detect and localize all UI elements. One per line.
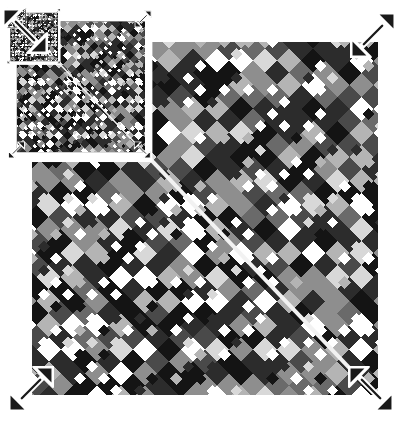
resize-handle-bottom-left[interactable] (7, 57, 13, 63)
resize-handle-bottom-left[interactable] (8, 141, 25, 158)
screenshot-canvas (0, 0, 399, 422)
resize-handle-bottom-left[interactable] (8, 366, 54, 412)
resize-handle-bottom-right[interactable] (134, 141, 151, 158)
resize-handle-bottom-right[interactable] (54, 57, 60, 63)
resize-handle-top-right-icon[interactable] (135, 10, 152, 27)
resize-handle-top-right-icon[interactable] (350, 12, 396, 58)
pattern-panel-root (0, 0, 399, 422)
resize-handle-top-right-icon[interactable] (54, 9, 60, 15)
resize-handle-bottom-left-icon[interactable] (8, 366, 54, 412)
resize-handle-bottom-right[interactable] (348, 366, 394, 412)
resize-handle-top-right[interactable] (350, 12, 396, 58)
resize-handle-top-right[interactable] (135, 10, 152, 27)
resize-handle-bottom-right-icon[interactable] (54, 57, 60, 63)
resize-handle-top-right[interactable] (54, 9, 60, 15)
resize-handle-bottom-left-icon[interactable] (7, 57, 13, 63)
resize-handle-bottom-left-icon[interactable] (8, 141, 25, 158)
resize-handle-bottom-right-icon[interactable] (348, 366, 394, 412)
resize-handle-bottom-right-icon[interactable] (134, 141, 151, 158)
resize-handle-top-left[interactable] (2, 8, 48, 54)
resize-handle-top-left-icon[interactable] (2, 8, 48, 54)
